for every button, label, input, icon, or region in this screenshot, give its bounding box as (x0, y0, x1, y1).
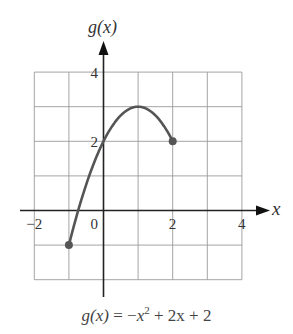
tick-labels: −202424 (26, 65, 246, 231)
x-tick-label: −2 (26, 216, 42, 232)
endpoint-dot (169, 137, 177, 145)
curve-g (65, 107, 177, 249)
y-axis-label: g(x) (88, 17, 117, 38)
x-axis-label: x (271, 198, 281, 219)
x-tick-label: 2 (169, 216, 177, 232)
caption-lhs: g(x) (82, 306, 109, 325)
grid (34, 72, 242, 280)
axes (20, 41, 270, 297)
x-tick-label: 0 (91, 216, 99, 232)
caption-rest: + 2x + 2 (150, 306, 212, 325)
y-axis-arrow-icon (99, 41, 109, 55)
endpoint-dot (65, 241, 73, 249)
function-caption: g(x) = −x2 + 2x + 2 (0, 304, 293, 326)
x-tick-label: 4 (238, 216, 246, 232)
y-tick-label: 2 (91, 134, 99, 150)
y-tick-label: 4 (91, 65, 99, 81)
x-axis-arrow-icon (256, 206, 270, 216)
caption-eq: = − (109, 306, 137, 325)
function-graph: −202424 g(x) x (0, 0, 293, 334)
